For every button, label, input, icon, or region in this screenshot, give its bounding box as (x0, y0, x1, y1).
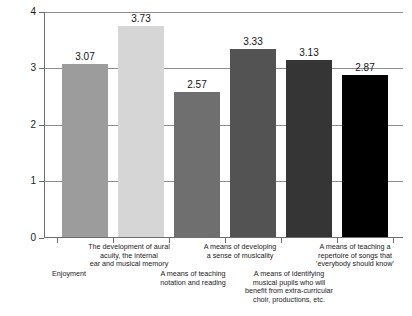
y-tick-label-3: 3 (30, 63, 36, 73)
bar-enjoyment[interactable]: 3.07 (62, 64, 108, 237)
category-label-aural-acuity: The development of aural acuity, the int… (71, 243, 187, 269)
category-labels: Enjoyment The development of aural acuit… (0, 243, 412, 316)
bar-repertoire-of-songs[interactable]: 2.87 (342, 75, 388, 237)
category-label-repertoire-of-songs: A means of teaching a repertoire of song… (298, 243, 412, 269)
category-label-line: ear and musical memory (71, 260, 187, 269)
y-tick-mark-3 (39, 68, 44, 69)
y-tick-mark-4 (39, 12, 44, 13)
y-tick-label-2: 2 (30, 120, 36, 130)
y-tick-label-4: 4 (30, 7, 36, 17)
category-label-enjoyment: Enjoyment (29, 270, 109, 279)
y-tick-label-1: 1 (30, 176, 36, 186)
y-tick-mark-1 (39, 181, 44, 182)
y-tick-0: 0 (44, 238, 45, 239)
category-label-line: a sense of musicality (184, 252, 296, 261)
x-axis-line (44, 237, 403, 238)
bar-value-label: 2.87 (355, 62, 374, 73)
bar-notation-reading[interactable]: 2.57 (174, 92, 220, 237)
y-tick-mark-0 (39, 238, 44, 239)
bar-value-label: 3.73 (131, 13, 150, 24)
category-label-line: choir, productions, etc. (228, 296, 350, 305)
bar-value-label: 3.07 (75, 51, 94, 62)
bar-value-label: 2.57 (187, 79, 206, 90)
gridline-4 (45, 12, 403, 13)
category-label-line: 'everybody should know' (298, 260, 412, 269)
category-label-sense-of-musicality: A means of developing a sense of musical… (184, 243, 296, 260)
y-tick-1: 1 (44, 181, 45, 182)
bar-aural-acuity[interactable]: 3.73 (118, 26, 164, 237)
bar-identifying-musical-pupils[interactable]: 3.13 (286, 60, 332, 237)
category-label-line: Enjoyment (29, 270, 109, 279)
bar-value-label: 3.13 (299, 47, 318, 58)
category-label-identifying-musical-pupils: A means of identifying musical pupils wh… (228, 270, 350, 304)
y-tick-2: 2 (44, 125, 45, 126)
bar-value-label: 3.33 (243, 36, 262, 47)
y-tick-mark-2 (39, 125, 44, 126)
y-tick-label-0: 0 (30, 233, 36, 243)
bar-chart-figure: 4 3 2 1 0 3.07 3.73 (0, 0, 412, 316)
plot-area: 4 3 2 1 0 3.07 3.73 (44, 12, 403, 238)
bar-sense-of-musicality[interactable]: 3.33 (230, 49, 276, 237)
y-tick-3: 3 (44, 68, 45, 69)
y-tick-4: 4 (44, 12, 45, 13)
